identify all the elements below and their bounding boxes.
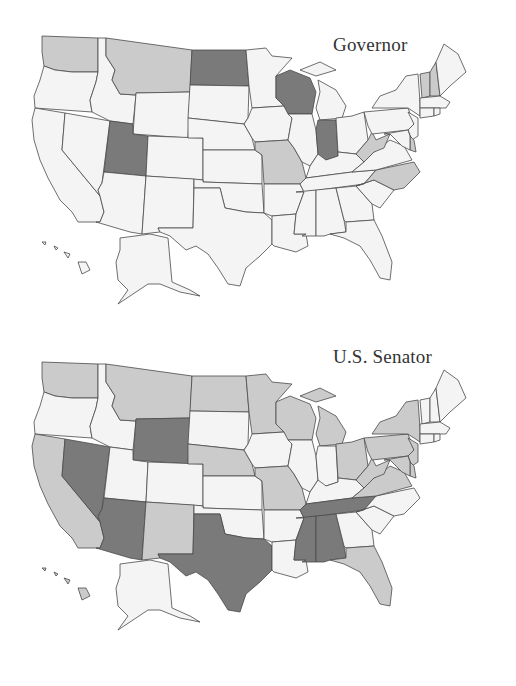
state-ri (434, 108, 440, 116)
state-nm (142, 502, 194, 560)
state-mt (106, 38, 192, 95)
state-ia (244, 432, 292, 468)
state-ia (244, 106, 292, 142)
state-sd (188, 85, 249, 124)
governor-us-map (0, 0, 516, 330)
state-hi (42, 242, 90, 274)
state-wa (42, 362, 98, 398)
state-co (146, 462, 203, 506)
state-ma (420, 96, 450, 108)
state-wy (133, 418, 190, 464)
state-nd (190, 50, 249, 86)
state-nm (142, 176, 194, 234)
state-az (96, 172, 146, 234)
state-ct (420, 434, 434, 444)
state-hi (42, 568, 90, 600)
state-sd (188, 411, 249, 450)
senator-us-map (0, 326, 516, 656)
state-nd (190, 376, 249, 412)
state-wa (42, 36, 98, 72)
state-or (34, 66, 98, 112)
senator-map-panel: U.S. Senator (0, 326, 516, 656)
state-ct (420, 108, 434, 118)
state-ks (203, 150, 262, 184)
state-ks (203, 476, 262, 510)
state-vt (420, 398, 430, 424)
state-mt (106, 364, 192, 421)
state-ri (434, 434, 440, 442)
state-me (436, 44, 466, 96)
state-co (146, 136, 203, 180)
state-or (34, 392, 98, 438)
state-me (436, 370, 466, 422)
state-wy (133, 92, 190, 138)
governor-map-panel: Governor (0, 0, 516, 330)
state-ma (420, 422, 450, 434)
state-vt (420, 72, 430, 98)
state-az (96, 498, 146, 560)
